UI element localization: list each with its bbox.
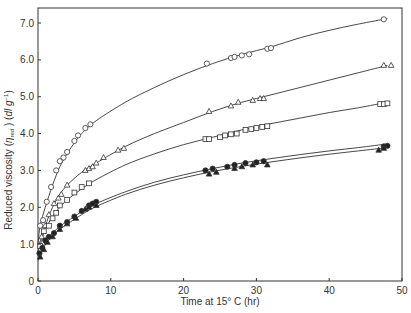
data-point: [381, 62, 387, 67]
fit-curve: [38, 65, 387, 247]
data-point: [75, 133, 80, 138]
data-point: [87, 181, 92, 186]
data-point: [204, 61, 209, 66]
data-point: [50, 216, 55, 221]
data-point: [57, 203, 62, 208]
data-point: [218, 135, 223, 140]
data-point: [65, 149, 70, 154]
plot-border: [38, 8, 402, 281]
data-point: [235, 99, 241, 104]
plot-frame: [38, 8, 402, 281]
data-point: [260, 125, 265, 130]
data-point: [206, 108, 212, 113]
y-tick-label: 6.0: [20, 54, 34, 65]
x-tick-label: 40: [324, 285, 336, 296]
data-point: [247, 52, 252, 57]
y-tick-label: 2.0: [20, 202, 34, 213]
data-point: [101, 155, 107, 160]
data-point: [72, 190, 77, 195]
data-point: [239, 53, 244, 58]
data-point: [261, 159, 266, 164]
data-point: [79, 185, 84, 190]
data-point: [65, 198, 70, 203]
data-point: [388, 62, 394, 67]
data-point: [44, 199, 49, 204]
data-point: [49, 184, 54, 189]
data-point: [234, 131, 239, 136]
data-point: [243, 127, 248, 132]
data-point: [268, 45, 273, 50]
data-point: [54, 168, 59, 173]
x-tick-label: 50: [396, 285, 408, 296]
y-tick-label: 0: [28, 276, 34, 287]
data-point: [83, 125, 88, 130]
x-tick-label: 20: [178, 285, 190, 296]
data-point: [41, 229, 46, 234]
data-point: [228, 103, 234, 108]
data-point: [38, 223, 43, 228]
data-point: [210, 166, 215, 171]
data-point: [385, 143, 390, 148]
data-point: [88, 122, 93, 127]
viscosity-chart: 01020304050 01.02.03.04.05.06.07.0 Time …: [0, 0, 411, 313]
y-tick-label: 1.0: [20, 239, 34, 250]
data-point: [254, 126, 259, 131]
data-point: [207, 137, 212, 142]
y-tick-label: 5.0: [20, 91, 34, 102]
fit-curve: [38, 144, 387, 259]
x-tick-label: 10: [105, 285, 117, 296]
y-tick-label: 3.0: [20, 165, 34, 176]
x-tick-label: 0: [35, 285, 41, 296]
data-point: [61, 155, 66, 160]
y-tick-label: 4.0: [20, 128, 34, 139]
data-point: [254, 160, 259, 165]
data-point: [385, 101, 390, 106]
data-point: [381, 17, 386, 22]
data-point: [58, 191, 64, 196]
data-point: [47, 223, 52, 228]
data-point: [232, 54, 237, 59]
x-axis-label: Time at 15° C (hr): [180, 296, 259, 307]
fit-curve: [38, 19, 387, 245]
data-point: [72, 138, 77, 143]
data-point: [243, 160, 248, 165]
x-tick-label: 30: [251, 285, 263, 296]
y-axis-label: Reduced viscosity (ηred ) (dl g−1): [3, 90, 15, 229]
data-point: [249, 127, 254, 132]
data-points: [37, 17, 394, 259]
y-tick-label: 7.0: [20, 18, 34, 29]
data-point: [203, 168, 208, 173]
data-point: [93, 160, 99, 165]
data-point: [40, 218, 45, 223]
data-point: [225, 164, 230, 169]
data-point: [223, 133, 228, 138]
data-point: [265, 124, 270, 129]
fit-curves: [38, 19, 387, 261]
data-point: [229, 132, 234, 137]
data-point: [54, 210, 59, 215]
